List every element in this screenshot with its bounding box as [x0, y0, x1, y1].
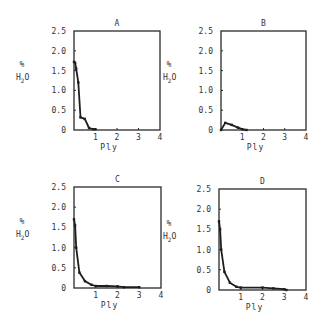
y-tick-label: 1.0: [52, 244, 67, 253]
data-point: [220, 248, 222, 250]
data-point: [94, 128, 96, 130]
svg-text:H2O: H2O: [16, 230, 29, 241]
data-point: [75, 67, 77, 69]
y-tick-label: 2.0: [197, 205, 212, 214]
svg-text:%: %: [20, 60, 25, 69]
chart-panel-a: A00.51.01.52.02.51234Ply%H2O: [16, 19, 163, 152]
plot-frame: [219, 189, 306, 290]
y-tick-label: 1.5: [199, 67, 214, 76]
y-tick-label: 2.5: [52, 183, 67, 192]
y-axis-label: %H2O: [163, 60, 176, 84]
panel-title: A: [115, 19, 120, 28]
data-point: [75, 246, 77, 248]
data-point: [283, 288, 285, 290]
panel-title: C: [115, 175, 120, 184]
data-point: [230, 124, 232, 126]
data-point: [245, 129, 247, 131]
y-tick-label: 0.5: [197, 266, 212, 275]
data-point: [237, 126, 239, 128]
panel-title: D: [260, 177, 265, 186]
data-point: [223, 271, 225, 273]
data-point: [224, 122, 226, 124]
x-tick-label: 2: [115, 133, 120, 142]
data-point: [84, 118, 86, 120]
y-tick-label: 2.0: [52, 203, 67, 212]
y-tick-label: 0: [206, 286, 211, 295]
x-axis-label: Ply: [246, 303, 263, 312]
y-tick-label: 2.5: [197, 185, 212, 194]
data-point: [74, 61, 76, 63]
x-tick-label: 1: [93, 133, 98, 142]
data-point: [88, 127, 90, 129]
y-tick-label: 0: [61, 284, 66, 293]
y-tick-label: 1.0: [197, 246, 212, 255]
data-point: [92, 128, 94, 130]
y-tick-label: 1.5: [197, 225, 212, 234]
data-point: [74, 224, 76, 226]
y-axis-label: %H2O: [16, 217, 29, 241]
data-point: [116, 285, 118, 287]
data-point: [105, 285, 107, 287]
data-point: [95, 285, 97, 287]
y-tick-label: 2.5: [52, 27, 67, 36]
x-tick-label: 4: [159, 291, 164, 300]
x-axis-label: Ply: [101, 301, 118, 310]
data-point: [138, 286, 140, 288]
data-point: [218, 220, 220, 222]
data-line: [74, 219, 139, 287]
data-point: [78, 271, 80, 273]
x-tick-label: 1: [238, 293, 243, 302]
svg-text:%: %: [20, 217, 25, 226]
y-axis-label: %H2O: [163, 219, 176, 243]
data-point: [123, 286, 125, 288]
data-point: [79, 116, 81, 118]
chart-panel-b: B00.51.01.52.02.51234Ply%H2O: [163, 19, 309, 152]
svg-text:%: %: [167, 60, 172, 69]
x-tick-label: 3: [137, 291, 142, 300]
data-point: [220, 129, 222, 131]
x-tick-label: 3: [136, 133, 141, 142]
svg-text:H2O: H2O: [16, 73, 29, 84]
y-tick-label: 0.5: [52, 264, 67, 273]
data-point: [73, 218, 75, 220]
data-point: [240, 286, 242, 288]
data-point: [241, 128, 243, 130]
y-tick-label: 1.0: [199, 86, 214, 95]
svg-text:H2O: H2O: [163, 73, 176, 84]
data-point: [77, 81, 79, 83]
y-tick-label: 2.0: [52, 47, 67, 56]
x-tick-label: 2: [260, 293, 265, 302]
x-tick-label: 1: [93, 291, 98, 300]
plot-frame: [221, 31, 306, 130]
y-tick-label: 1.5: [52, 67, 67, 76]
x-tick-label: 4: [304, 133, 309, 142]
y-tick-label: 0: [208, 126, 213, 135]
y-tick-label: 1.0: [52, 86, 67, 95]
chart-panel-c: C00.51.01.52.02.51234Ply%H2O: [16, 175, 164, 310]
plot-frame: [74, 187, 161, 288]
y-tick-label: 1.5: [52, 223, 67, 232]
data-point: [90, 284, 92, 286]
panel-title: B: [261, 19, 266, 28]
figure-panel-grid: A00.51.01.52.02.51234Ply%H2OB00.51.01.52…: [0, 0, 326, 332]
x-tick-label: 3: [282, 133, 287, 142]
svg-text:%: %: [167, 219, 172, 228]
y-tick-label: 0: [61, 126, 66, 135]
x-axis-label: Ply: [247, 143, 264, 152]
x-axis-label: Ply: [100, 143, 117, 152]
y-tick-label: 0.5: [199, 106, 214, 115]
data-point: [285, 289, 287, 291]
chart-panel-d: D00.51.01.52.02.51234Ply%H2O: [163, 177, 309, 312]
y-tick-label: 2.0: [199, 47, 214, 56]
plot-frame: [74, 31, 160, 130]
data-point: [84, 280, 86, 282]
x-tick-label: 2: [115, 291, 120, 300]
data-point: [261, 286, 263, 288]
data-point: [229, 282, 231, 284]
data-line: [219, 221, 286, 290]
y-tick-label: 2.5: [199, 27, 214, 36]
data-point: [219, 228, 221, 230]
x-tick-label: 4: [158, 133, 163, 142]
data-point: [235, 286, 237, 288]
y-axis-label: %H2O: [16, 60, 29, 84]
